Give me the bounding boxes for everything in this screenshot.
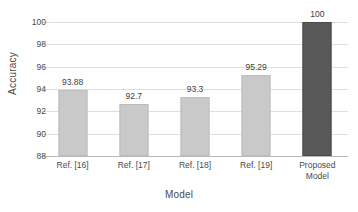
x-axis-category-label: Ref. [18] bbox=[164, 160, 225, 171]
x-axis-category-label: Ref. [19] bbox=[226, 160, 287, 171]
gridline bbox=[42, 156, 348, 157]
bar[interactable] bbox=[242, 75, 271, 156]
bar-slot: 100 bbox=[287, 22, 348, 156]
accuracy-bar-chart: Accuracy 93.8892.793.395.29100 889092949… bbox=[0, 0, 358, 212]
x-axis-category-label-line: Ref. [17] bbox=[103, 160, 164, 171]
plot-area: 93.8892.793.395.29100 bbox=[42, 22, 348, 156]
y-axis-tick-label: 88 bbox=[6, 151, 46, 161]
y-axis-tick-label: 96 bbox=[6, 62, 46, 72]
x-axis-category-label-line: Ref. [16] bbox=[42, 160, 103, 171]
bar[interactable] bbox=[119, 104, 148, 156]
x-axis-category-label-line: Proposed bbox=[287, 160, 348, 171]
bar-value-label: 100 bbox=[310, 9, 324, 19]
bar-slot: 93.88 bbox=[42, 22, 103, 156]
x-axis-category-label-line: Model bbox=[287, 171, 348, 182]
x-axis-category-labels: Ref. [16]Ref. [17]Ref. [18]Ref. [19]Prop… bbox=[42, 160, 348, 190]
bar-value-label: 93.88 bbox=[62, 77, 83, 87]
x-axis-category-label: ProposedModel bbox=[287, 160, 348, 182]
x-axis-category-label-line: Ref. [18] bbox=[164, 160, 225, 171]
bar-slot: 95.29 bbox=[226, 22, 287, 156]
y-axis-tick-label: 90 bbox=[6, 129, 46, 139]
bar[interactable] bbox=[180, 97, 209, 156]
bar-slot: 92.7 bbox=[103, 22, 164, 156]
bar-value-label: 92.7 bbox=[126, 91, 143, 101]
y-axis-tick-label: 92 bbox=[6, 106, 46, 116]
y-axis-tick-label: 100 bbox=[6, 17, 46, 27]
bar-slot: 93.3 bbox=[164, 22, 225, 156]
bars-layer: 93.8892.793.395.29100 bbox=[42, 22, 348, 156]
x-axis-title: Model bbox=[0, 189, 358, 200]
y-axis-tick-label: 98 bbox=[6, 39, 46, 49]
bar-value-label: 93.3 bbox=[187, 84, 204, 94]
bar[interactable] bbox=[303, 22, 332, 156]
y-axis-tick-label: 94 bbox=[6, 84, 46, 94]
x-axis-category-label: Ref. [16] bbox=[42, 160, 103, 171]
x-axis-category-label-line: Ref. [19] bbox=[226, 160, 287, 171]
bar[interactable] bbox=[58, 90, 87, 156]
bar-value-label: 95.29 bbox=[246, 62, 267, 72]
x-axis-category-label: Ref. [17] bbox=[103, 160, 164, 171]
